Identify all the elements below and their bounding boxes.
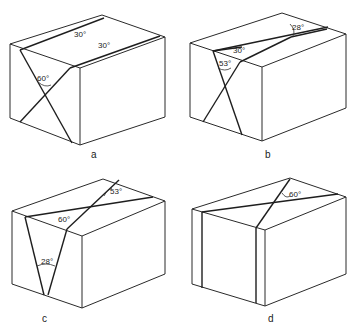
block-diagram-c: 53° 60° 28° c <box>12 179 165 324</box>
fault-block-diagrams: 30° 30° 60° a 28° 30° 53° b 53° 60° 28° <box>0 0 359 332</box>
block-b-sides <box>190 34 346 141</box>
block-diagram-a: 30° 30° 60° a <box>10 15 165 160</box>
angle-label: 28° <box>41 257 53 266</box>
block-diagram-d: 60° d <box>192 178 346 324</box>
block-d-top-face <box>192 178 346 230</box>
block-a-sides <box>10 37 165 145</box>
angle-label: 60° <box>289 190 301 199</box>
panel-caption-d: d <box>268 313 274 324</box>
block-a-top-face <box>10 15 165 68</box>
block-c-sides <box>12 201 165 308</box>
angle-label: 60° <box>37 74 49 83</box>
angle-label: 53° <box>219 59 231 68</box>
angle-label: 30° <box>98 41 110 50</box>
angle-label: 60° <box>58 215 70 224</box>
fault-trace-side-a1 <box>20 50 72 143</box>
fault-trace-top-d1 <box>202 194 338 212</box>
fault-trace-top-a1 <box>20 18 104 50</box>
angle-label: 28° <box>292 23 304 32</box>
block-d-sides <box>192 197 346 306</box>
fault-trace-top-a2 <box>70 36 160 68</box>
panel-caption-c: c <box>42 313 47 324</box>
panel-caption-b: b <box>265 149 271 160</box>
fault-trace-side-c1 <box>25 217 44 295</box>
angle-label: 30° <box>233 46 245 55</box>
panel-caption-a: a <box>91 149 97 160</box>
angle-label: 30° <box>74 30 86 39</box>
angle-label: 53° <box>110 187 122 196</box>
block-diagram-b: 28° 30° 53° b <box>190 13 346 160</box>
